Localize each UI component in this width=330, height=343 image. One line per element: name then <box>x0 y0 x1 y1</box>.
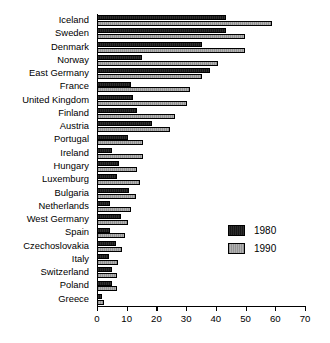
bar-1990 <box>97 61 218 66</box>
x-axis-tick <box>216 306 217 311</box>
x-axis-tick-label: 0 <box>82 313 112 324</box>
x-axis-tick-label: 70 <box>290 313 320 324</box>
bar-group <box>97 107 305 121</box>
y-axis-label: Finland <box>0 108 89 118</box>
bar-1990 <box>97 21 272 26</box>
light-swatch-icon <box>228 243 245 254</box>
plot-area <box>97 14 305 306</box>
x-axis-tick <box>305 306 306 311</box>
bar-1990 <box>97 114 175 119</box>
y-axis-label: Poland <box>0 280 89 290</box>
bar-1990 <box>97 300 104 305</box>
bar-group <box>97 187 305 201</box>
y-axis-label: Sweden <box>0 28 89 38</box>
y-axis-label: Czechoslovakia <box>0 241 89 251</box>
bar-group <box>97 173 305 187</box>
bar-1980 <box>97 267 112 272</box>
bar-1990 <box>97 127 170 132</box>
y-axis-label: France <box>0 81 89 91</box>
bar-1990 <box>97 74 202 79</box>
y-axis-label: Spain <box>0 227 89 237</box>
bar-1980 <box>97 82 131 87</box>
bar-1990 <box>97 48 245 53</box>
bar-1990 <box>97 233 125 238</box>
y-axis-label: Denmark <box>0 42 89 52</box>
y-axis-labels: IcelandSwedenDenmarkNorwayEast GermanyFr… <box>0 14 93 306</box>
bar-group <box>97 120 305 134</box>
y-axis-label: Iceland <box>0 15 89 25</box>
y-axis-label: Norway <box>0 55 89 65</box>
y-axis-label: Italy <box>0 254 89 264</box>
bar-1990 <box>97 194 136 199</box>
bar-1980 <box>97 161 119 166</box>
y-axis-label: United Kingdom <box>0 95 89 105</box>
bar-group <box>97 67 305 81</box>
y-axis-label: Portugal <box>0 134 89 144</box>
bar-group <box>97 27 305 41</box>
bar-group <box>97 14 305 28</box>
dark-swatch-icon <box>228 225 245 236</box>
bar-1990 <box>97 167 137 172</box>
bar-1980 <box>97 201 110 206</box>
x-axis-tick-label: 20 <box>141 313 171 324</box>
x-axis-tick <box>186 306 187 311</box>
bar-group <box>97 94 305 108</box>
bar-1980 <box>97 28 226 33</box>
bar-group <box>97 54 305 68</box>
x-axis-tick <box>246 306 247 311</box>
bar-1990 <box>97 34 245 39</box>
bar-1980 <box>97 228 110 233</box>
y-axis-label: Bulgaria <box>0 188 89 198</box>
y-axis-label: Switzerland <box>0 267 89 277</box>
x-axis-tick <box>97 306 98 311</box>
bar-1980 <box>97 294 102 299</box>
bar-1980 <box>97 241 116 246</box>
bar-1990 <box>97 207 131 212</box>
bar-1980 <box>97 214 121 219</box>
bar-1990 <box>97 180 140 185</box>
bar-1980 <box>97 108 137 113</box>
y-axis-label: Hungary <box>0 161 89 171</box>
bar-1990 <box>97 273 117 278</box>
bar-1980 <box>97 148 112 153</box>
bar-1980 <box>97 174 117 179</box>
bar-1980 <box>97 135 128 140</box>
y-axis-label: Netherlands <box>0 201 89 211</box>
x-axis-tick-label: 10 <box>112 313 142 324</box>
bar-1990 <box>97 247 122 252</box>
bar-1980 <box>97 68 210 73</box>
bar-group <box>97 80 305 94</box>
y-axis-label: Greece <box>0 294 89 304</box>
bar-1990 <box>97 286 117 291</box>
x-axis-tick <box>156 306 157 311</box>
bar-1990 <box>97 87 190 92</box>
bar-group <box>97 200 305 214</box>
bar-group <box>97 41 305 55</box>
horizontal-bar-chart: IcelandSwedenDenmarkNorwayEast GermanyFr… <box>0 0 330 343</box>
bar-1980 <box>97 15 226 20</box>
bar-group <box>97 279 305 293</box>
x-axis-tick <box>275 306 276 311</box>
legend-label-1980: 1980 <box>254 225 276 237</box>
bar-1980 <box>97 254 109 259</box>
bar-1980 <box>97 42 202 47</box>
x-axis-tick-label: 60 <box>260 313 290 324</box>
bar-group <box>97 147 305 161</box>
bar-1980 <box>97 188 129 193</box>
y-axis-label: Austria <box>0 121 89 131</box>
bar-1990 <box>97 260 118 265</box>
bar-1990 <box>97 154 143 159</box>
x-axis-tick-label: 30 <box>171 313 201 324</box>
bar-1990 <box>97 101 187 106</box>
bar-1990 <box>97 140 143 145</box>
y-axis-label: West Germany <box>0 214 89 224</box>
bar-group <box>97 293 305 307</box>
y-axis-label: East Germany <box>0 68 89 78</box>
bar-1980 <box>97 95 133 100</box>
y-axis-label: Ireland <box>0 148 89 158</box>
bar-1980 <box>97 281 112 286</box>
bar-1980 <box>97 55 142 60</box>
bar-group <box>97 133 305 147</box>
bar-group <box>97 266 305 280</box>
legend-label-1990: 1990 <box>254 243 276 255</box>
